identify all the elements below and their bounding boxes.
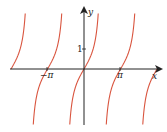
plot-area bbox=[0, 0, 167, 132]
x-tick-label-neg-pi: −π bbox=[40, 71, 53, 80]
y-tick-label-1: 1 bbox=[77, 45, 83, 54]
x-axis-label: x bbox=[152, 72, 157, 81]
x-tick-label-pi: π bbox=[117, 71, 123, 80]
y-axis-label: y bbox=[88, 8, 93, 17]
tan-branch bbox=[11, 13, 25, 69]
